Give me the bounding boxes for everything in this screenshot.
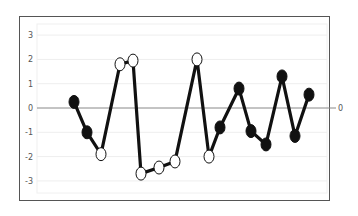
data-point-marker	[204, 150, 214, 163]
data-point-marker	[215, 121, 225, 134]
data-point-marker	[115, 58, 125, 71]
data-point-marker	[154, 161, 164, 174]
data-point-marker	[304, 88, 314, 101]
data-point-marker	[128, 54, 138, 67]
line-chart: 3210-1-2-30	[0, 0, 358, 216]
data-point-marker	[136, 167, 146, 180]
data-point-marker	[246, 125, 256, 138]
data-point-marker	[261, 138, 271, 151]
y-tick-label: 3	[28, 31, 33, 40]
zero-line-label: 0	[338, 104, 343, 113]
data-point-marker	[277, 70, 287, 83]
data-point-marker	[82, 126, 92, 139]
y-tick-label: 0	[28, 104, 33, 113]
y-tick-label: 2	[28, 55, 33, 64]
data-point-marker	[96, 148, 106, 161]
data-point-marker	[69, 95, 79, 108]
data-point-marker	[290, 129, 300, 142]
data-point-marker	[170, 155, 180, 168]
y-tick-label: -2	[25, 153, 33, 162]
data-point-marker	[192, 53, 202, 66]
y-tick-label: -1	[25, 128, 33, 137]
y-tick-label: 1	[28, 80, 33, 89]
data-point-marker	[234, 82, 244, 95]
y-tick-label: -3	[25, 177, 33, 186]
